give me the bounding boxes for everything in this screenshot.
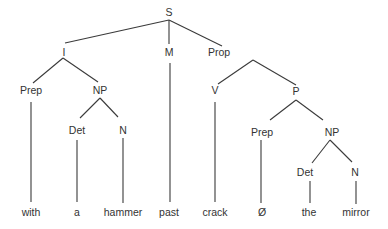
tree-node-prop: Prop [208, 46, 230, 58]
leaf-word-past: past [159, 206, 179, 218]
tree-edge-i-prep1 [33, 58, 63, 83]
tree-edge-prop-p [253, 60, 296, 85]
tree-edge-np1-det1 [80, 98, 100, 118]
leaf-word-the: the [302, 206, 317, 218]
leaf-word-with: with [21, 206, 41, 218]
tree-node-v: V [211, 84, 218, 96]
tree-node-i: I [63, 46, 66, 58]
tree-node-prep2: Prep [251, 126, 273, 138]
tree-edge-p-prep2 [270, 100, 296, 120]
tree-edge-prop-v [218, 60, 253, 84]
tree-edge-s-i [65, 20, 169, 43]
tree-node-p: P [292, 85, 299, 97]
tree-node-prep1: Prep [20, 84, 42, 96]
tree-node-np2: NP [325, 126, 340, 138]
tree-node-m: M [165, 46, 174, 58]
tree-node-n2: N [351, 166, 359, 178]
leaf-word-crack: crack [202, 206, 228, 218]
tree-edge-s-prop [169, 20, 222, 46]
tree-node-s: S [165, 6, 172, 18]
leaf-word-hammer: hammer [104, 206, 143, 218]
syntax-tree: SIMPropPrepNPVPDetNPrepNPDetNwithahammer… [0, 0, 388, 229]
leaf-word-null: Ø [258, 206, 266, 218]
leaf-word-a: a [74, 206, 80, 218]
leaf-word-mirror: mirror [342, 206, 370, 218]
tree-node-det2: Det [297, 166, 313, 178]
tree-edge-np2-det2 [312, 140, 330, 163]
tree-node-np1: NP [93, 84, 108, 96]
tree-node-det1: Det [69, 124, 85, 136]
tree-edge-p-np2 [296, 100, 323, 120]
tree-nodes: SIMPropPrepNPVPDetNPrepNPDetNwithahammer… [20, 6, 370, 218]
tree-node-n1: N [119, 124, 127, 136]
tree-edge-np2-n2 [330, 140, 352, 162]
tree-edge-i-np1 [63, 58, 98, 82]
tree-edge-np1-n1 [100, 98, 118, 117]
